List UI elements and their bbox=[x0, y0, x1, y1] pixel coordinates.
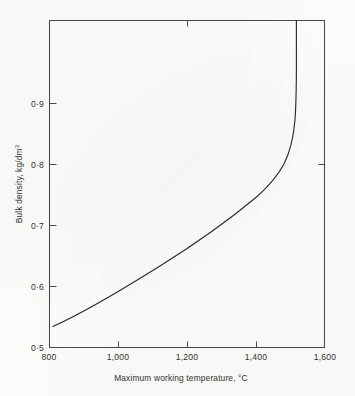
y-axis-title: Bulk density, kg/dm3 bbox=[14, 144, 24, 223]
data-curve-bulk-density bbox=[53, 21, 297, 327]
y-tick-label-0-7: 0·7 bbox=[31, 221, 44, 231]
y-tick-label-0-8: 0·8 bbox=[31, 160, 44, 170]
x-tick-label-1600: 1,600 bbox=[314, 352, 337, 362]
x-tick-label-800: 800 bbox=[42, 352, 57, 362]
y-axis-title-group: Bulk density, kg/dm3 bbox=[14, 144, 24, 223]
y-tick-labels: 0·5 0·6 0·7 0·8 0·9 bbox=[31, 99, 44, 353]
y-axis-title-text: Bulk density, kg/dm bbox=[14, 148, 24, 223]
x-axis-title: Maximum working temperature, °C bbox=[114, 373, 248, 383]
x-tick-label-1000: 1,000 bbox=[107, 352, 130, 362]
y-tick-label-0-6: 0·6 bbox=[31, 282, 44, 292]
x-tick-label-1200: 1,200 bbox=[176, 352, 199, 362]
bulk-density-vs-temperature-chart: 800 1,000 1,200 1,400 1,600 0·5 0·6 0·7 … bbox=[0, 0, 355, 396]
y-axis-title-exponent: 3 bbox=[14, 144, 20, 148]
y-axis-ticks bbox=[50, 104, 325, 348]
x-axis-ticks bbox=[50, 21, 325, 348]
x-tick-labels: 800 1,000 1,200 1,400 1,600 bbox=[42, 352, 337, 362]
plot-frame bbox=[49, 20, 325, 348]
y-tick-label-0-9: 0·9 bbox=[31, 99, 44, 109]
y-tick-label-0-5: 0·5 bbox=[31, 343, 44, 353]
x-tick-label-1400: 1,400 bbox=[245, 352, 268, 362]
